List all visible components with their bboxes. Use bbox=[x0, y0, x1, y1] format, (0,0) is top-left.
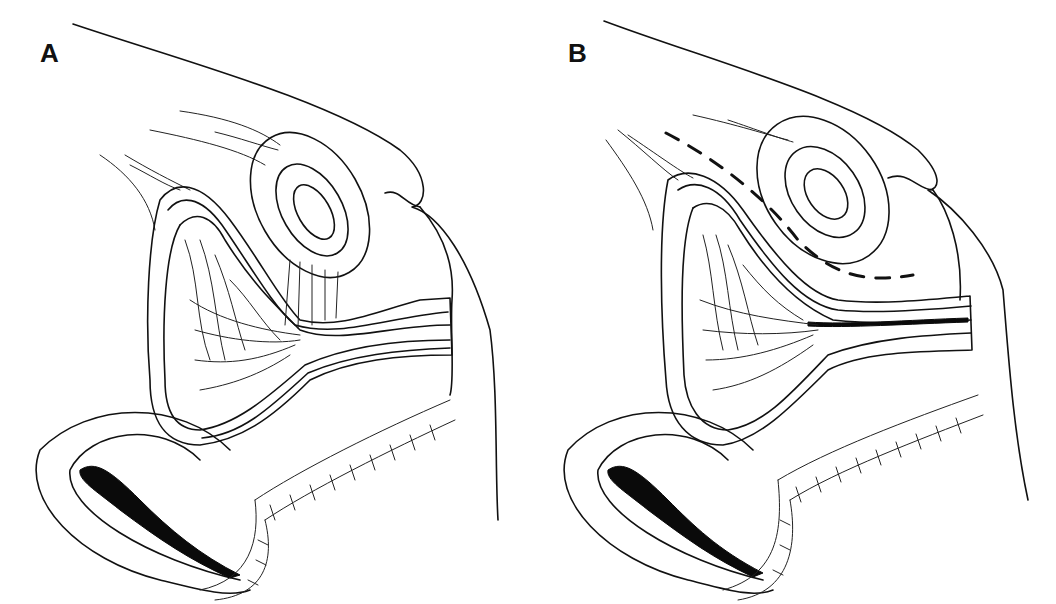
panel-b: B bbox=[528, 0, 1056, 604]
anatomical-illustration-a bbox=[0, 0, 528, 604]
anatomical-illustration-b bbox=[528, 0, 1056, 604]
panel-a: A bbox=[0, 0, 528, 604]
